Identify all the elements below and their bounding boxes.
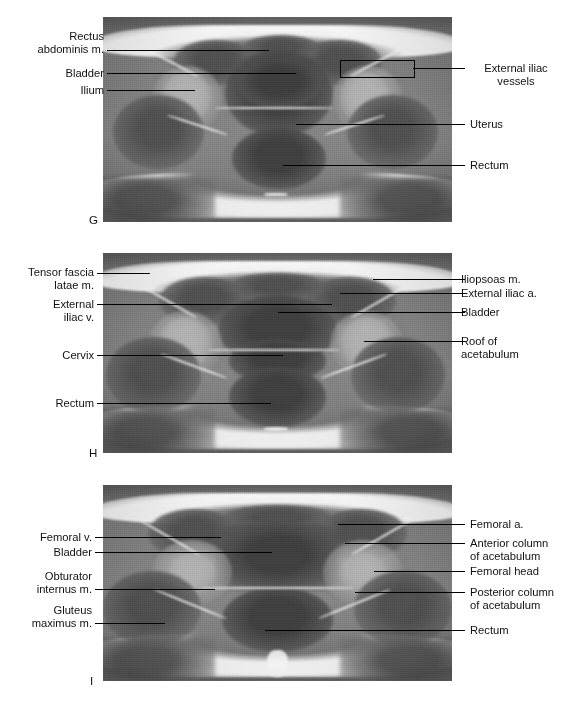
leader-line-femoral-v [95,537,221,538]
label-roof-of-acetabulum: Roof of acetabulum [461,335,561,362]
leader-line-anterior-column [345,543,465,544]
anatomy-figure: Rectus abdominis m. Bladder Ilium Extern… [0,0,561,710]
panel-i [103,485,452,681]
label-ilium: Ilium [4,84,104,97]
leader-line-rectus-abdominis [107,50,269,51]
leader-line-roof-of-acetabulum [364,341,465,342]
label-obturator-internus: Obturator internus m. [0,570,92,597]
leader-line-external-iliac-vessels [413,68,465,69]
label-uterus: Uterus [470,118,561,131]
label-external-iliac-v: External iliac v. [0,298,94,325]
panel-letter-i: I [90,675,93,687]
label-cervix: Cervix [0,349,94,362]
leader-line-rectum-i [265,630,465,631]
callout-box-external-iliac-vessels [340,60,415,78]
label-femoral-a: Femoral a. [470,518,561,531]
leader-line-tensor-fascia-latae [97,273,150,274]
leader-line-cervix [97,355,283,356]
panel-h-mri-image [103,253,452,453]
label-tensor-fascia-latae: Tensor fascia latae m. [0,266,94,293]
leader-line-obturator-internus [95,589,215,590]
leader-line-bladder-i [95,552,272,553]
label-bladder-h: Bladder [461,306,561,319]
label-bladder-g: Bladder [4,67,104,80]
leader-line-uterus [296,124,465,125]
leader-line-rectum-h [97,403,271,404]
leader-line-external-iliac-v [97,304,332,305]
panel-g [103,17,452,222]
label-iliopsoas: Iliopsoas m. [461,273,561,286]
label-posterior-column-of-acetabulum: Posterior column of acetabulum [470,586,561,613]
label-bladder-i: Bladder [0,546,92,559]
leader-line-posterior-column [355,592,465,593]
leader-line-external-iliac-a [340,293,465,294]
label-external-iliac-a: External iliac a. [461,287,561,300]
leader-line-femoral-head [374,571,465,572]
leader-line-iliopsoas [373,279,465,280]
label-rectum-g: Rectum [470,159,561,172]
label-rectum-i: Rectum [470,624,561,637]
panel-i-mri-image [103,485,452,681]
leader-line-bladder-h [278,312,465,313]
label-rectus-abdominis: Rectus abdominis m. [4,30,104,57]
leader-line-bladder-g [107,73,296,74]
panel-letter-g: G [89,214,98,226]
label-gluteus-maximus: Gluteus maximus m. [0,604,92,631]
leader-line-gluteus-maximus [95,623,165,624]
label-femoral-head: Femoral head [470,565,561,578]
panel-letter-h: H [89,447,97,459]
leader-line-ilium [107,90,195,91]
leader-line-femoral-a [338,524,465,525]
label-external-iliac-vessels: External iliac vessels [470,62,561,89]
panel-g-mri-image [103,17,452,222]
panel-h [103,253,452,453]
leader-line-rectum-g [283,165,465,166]
label-rectum-h: Rectum [0,397,94,410]
label-femoral-v: Femoral v. [0,531,92,544]
label-anterior-column-of-acetabulum: Anterior column of acetabulum [470,537,561,564]
